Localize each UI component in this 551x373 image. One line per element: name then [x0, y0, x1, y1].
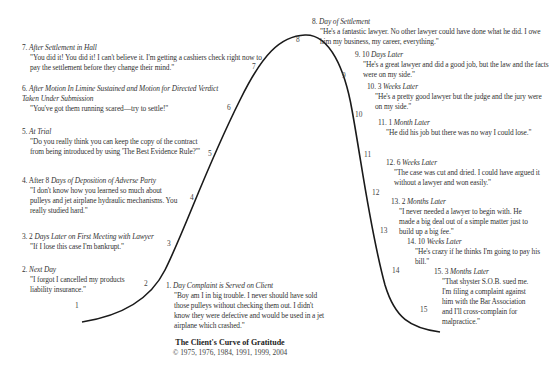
stage-number: 11. [378, 118, 387, 127]
stage-quote: "He's a pretty good lawyer but the judge… [367, 92, 547, 112]
stage-quote: "You've got them running scared—try to s… [22, 104, 222, 114]
stage-marker-10: 10 [355, 110, 362, 119]
stage-number: 8. [312, 17, 317, 26]
stage-timing-lead: 1 [388, 118, 392, 127]
stage-quote: "I never needed a lawyer to begin with. … [391, 207, 533, 237]
stage-marker-6: 6 [227, 103, 231, 112]
stage-number: 9. [355, 50, 360, 59]
stage-timing-lead: 2 [29, 232, 33, 241]
stage-quote: "I forgot I cancelled my products liabil… [22, 275, 147, 295]
stage-marker-5: 5 [208, 149, 212, 158]
diagram-title: The Client's Curve of Gratitude [130, 338, 330, 347]
stage-quote: "He's a fantastic lawyer. No other lawye… [312, 27, 548, 47]
stage-marker-9: 9 [342, 71, 346, 80]
stage-entry-2: 2. Next Day "I forgot I cancelled my pro… [22, 265, 147, 295]
stage-quote: "Boy am I in big trouble. I never should… [166, 291, 330, 331]
stage-number: 15. [434, 267, 443, 276]
stage-timing: At Trial [29, 127, 51, 136]
stage-entry-3: 3. 2 Days Later on First Meeting with La… [22, 232, 197, 252]
stage-marker-8: 8 [296, 35, 300, 44]
stage-number: 6. [22, 84, 27, 93]
stage-quote: "He did his job but there was no way I c… [378, 128, 546, 138]
stage-entry-1: 1. Day Complaint is Served on Client "Bo… [166, 281, 330, 331]
stage-timing: Month Later [394, 118, 430, 127]
stage-timing: Next Day [29, 265, 56, 274]
stage-quote: "If I lose this case I'm bankrupt." [22, 242, 197, 252]
stage-timing: Weeks Later [402, 158, 437, 167]
stage-timing-lead: 10 [362, 50, 369, 59]
stage-timing: Months Later [407, 197, 446, 206]
stage-quote: "You did it! You did it! I can't believe… [22, 53, 262, 73]
stage-timing: Day of Settlement [319, 17, 370, 26]
stage-number: 4. [22, 176, 27, 185]
stage-number: 1. [166, 281, 171, 290]
stage-timing-lead: 10 [418, 237, 425, 246]
stage-timing-lead: After 8 [29, 176, 49, 185]
stage-quote: "I don't know how you learned so much ab… [22, 186, 182, 216]
stage-quote: "The case was cut and dried. I could hav… [386, 168, 546, 188]
stage-quote: "That shyster S.O.B. sued me. I'm filing… [434, 277, 532, 327]
stage-marker-15: 15 [420, 305, 427, 314]
stage-marker-1: 1 [75, 301, 79, 310]
stage-timing-lead: 3 [445, 267, 449, 276]
stage-timing: Days of Deposition of Adverse Party [51, 176, 156, 185]
stage-quote: "He's crazy if he thinks I'm going to pa… [407, 247, 547, 267]
stage-timing: Day Complaint is Served on Client [173, 281, 273, 290]
stage-quote: "He's a great lawyer and did a good job,… [355, 60, 551, 80]
stage-quote: "Do you really think you can keep the co… [22, 137, 204, 157]
stage-timing-lead: 2 [402, 197, 406, 206]
stage-timing: Months Later [450, 267, 489, 276]
stage-entry-9: 9. 10 Days Later "He's a great lawyer an… [355, 50, 551, 80]
stage-entry-10: 10. 3 Weeks Later "He's a pretty good la… [367, 82, 547, 112]
stage-marker-12: 12 [372, 188, 379, 197]
stage-entry-12: 12. 6 Weeks Later "The case was cut and … [386, 158, 546, 188]
stage-marker-13: 13 [380, 226, 387, 235]
stage-entry-15: 15. 3 Months Later "That shyster S.O.B. … [434, 267, 532, 327]
stage-entry-8: 8. Day of Settlement "He's a fantastic l… [312, 17, 548, 47]
stage-timing: After Settlement in Hall [29, 43, 97, 52]
stage-entry-11: 11. 1 Month Later "He did his job but th… [378, 118, 546, 138]
stage-number: 3. [22, 232, 27, 241]
stage-timing: Weeks Later [427, 237, 462, 246]
stage-marker-4: 4 [190, 193, 194, 202]
stage-number: 5. [22, 127, 27, 136]
stage-timing: After Motion In Limine Sustained and Mot… [22, 84, 218, 103]
stage-entry-4: 4. After 8 Days of Deposition of Adverse… [22, 176, 182, 216]
stage-timing-lead: 6 [397, 158, 401, 167]
stage-marker-14: 14 [392, 266, 399, 275]
stage-number: 14. [407, 237, 416, 246]
diagram-copyright: © 1975, 1976, 1984, 1991, 1999, 2004 [130, 348, 330, 357]
stage-number: 13. [391, 197, 400, 206]
stage-entry-14: 14. 10 Weeks Later "He's crazy if he thi… [407, 237, 547, 267]
stage-entry-13: 13. 2 Months Later "I never needed a law… [391, 197, 533, 237]
stage-entry-7: 7. After Settlement in Hall "You did it!… [22, 43, 262, 73]
stage-entry-5: 5. At Trial "Do you really think you can… [22, 127, 204, 157]
stage-number: 7. [22, 43, 27, 52]
stage-timing-lead: 3 [378, 82, 382, 91]
stage-timing: Weeks Later [383, 82, 418, 91]
stage-number: 2. [22, 265, 27, 274]
stage-timing: Days Later on First Meeting with Lawyer [34, 232, 153, 241]
stage-number: 12. [386, 158, 395, 167]
curve-of-gratitude-diagram: 1 2 3 4 5 6 7 8 9 10 11 12 13 14 15 7. A… [0, 0, 551, 373]
stage-entry-6: 6. After Motion In Limine Sustained and … [22, 84, 222, 114]
stage-number: 10. [367, 82, 376, 91]
stage-timing: Days Later [371, 50, 403, 59]
stage-marker-11: 11 [364, 150, 371, 159]
